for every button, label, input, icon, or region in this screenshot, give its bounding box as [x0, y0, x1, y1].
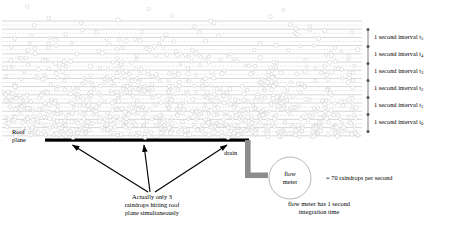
raindrop [284, 120, 287, 123]
raindrop [117, 64, 120, 67]
raindrop [159, 101, 163, 105]
raindrop [186, 72, 190, 76]
raindrop [152, 44, 156, 48]
raindrop [263, 89, 266, 92]
interval-label-subscript: 2 [421, 87, 423, 92]
raindrop [260, 98, 263, 101]
raindrop [240, 119, 243, 122]
raindrop [201, 130, 204, 133]
raindrop [254, 99, 258, 103]
raindrop [299, 45, 302, 48]
raindrop [228, 115, 231, 118]
raindrop [58, 65, 62, 69]
raindrop [339, 67, 343, 71]
interval-label-t0: 1 second interval t0 [374, 118, 423, 127]
raindrop [195, 90, 198, 93]
raindrop [288, 23, 292, 27]
raindrop [311, 115, 314, 118]
raindrop [37, 96, 41, 100]
raindrop [285, 86, 289, 90]
raindrop [206, 96, 209, 99]
roof-plane-label-line1: Roof [12, 128, 25, 136]
raindrop [120, 106, 124, 110]
interval-label-text: 1 second interval t [374, 118, 421, 125]
raindrop [135, 58, 138, 61]
raindrop [54, 71, 58, 75]
raindrop [170, 98, 174, 102]
raindrop [128, 133, 131, 136]
raindrop [272, 60, 275, 63]
raindrop [121, 87, 125, 91]
interval-label-t5: 1 second interval t5 [374, 33, 423, 42]
raindrop [236, 133, 240, 137]
raindrop [81, 97, 85, 101]
raindrop [324, 116, 328, 120]
raindrop [116, 94, 119, 97]
raindrop [331, 113, 335, 117]
raindrop [285, 99, 289, 103]
raindrop [280, 96, 284, 100]
raindrop [327, 60, 331, 64]
roof-plane-label-line2: plane [12, 136, 26, 144]
raindrop [201, 79, 204, 82]
raindrop [203, 39, 207, 43]
raindrop [24, 56, 28, 60]
raindrop [97, 119, 101, 123]
raindrop [285, 92, 288, 95]
raindrop [212, 92, 216, 96]
raindrop [240, 84, 244, 88]
raindrop [336, 114, 340, 118]
raindrop [201, 87, 204, 90]
raindrop [333, 46, 337, 50]
raindrop [294, 129, 298, 133]
raindrop [113, 122, 116, 125]
raindrop [38, 113, 42, 117]
raindrop [355, 48, 359, 52]
raindrop [242, 98, 246, 102]
raindrop [60, 111, 63, 114]
raindrop [178, 126, 182, 130]
raindrop [115, 48, 119, 52]
raindrop [177, 80, 181, 84]
interval-label-t4: 1 second interval t4 [374, 50, 423, 59]
raindrop [190, 109, 194, 113]
raindrop [120, 76, 123, 79]
interval-label-subscript: 4 [421, 53, 423, 58]
raindrop [288, 112, 291, 115]
raindrop [146, 92, 150, 96]
raindrop [292, 106, 295, 109]
raindrop [47, 103, 51, 107]
raindrop [210, 99, 214, 103]
raindrop [100, 126, 104, 130]
raindrop [47, 46, 51, 50]
drain-pipe-vertical [245, 140, 251, 178]
raindrop [48, 37, 51, 40]
raindrop [304, 59, 308, 63]
raindrop [48, 117, 52, 121]
raindrop [304, 97, 308, 101]
raindrop [157, 94, 161, 98]
raindrop [20, 105, 23, 108]
raindrop [98, 66, 101, 69]
raindrop [100, 51, 104, 55]
raindrop [217, 34, 221, 38]
raindrop [228, 102, 232, 106]
raindrop [247, 110, 250, 113]
interval-label-subscript: 5 [421, 36, 423, 41]
raindrop [325, 88, 328, 91]
raindrop [330, 94, 333, 97]
raindrop [23, 70, 26, 73]
raindrop [32, 109, 35, 112]
raindrop [63, 119, 67, 123]
raindrop [219, 130, 223, 134]
raindrop [193, 113, 196, 116]
raindrop [150, 82, 154, 86]
raindrop [113, 126, 117, 130]
raindrop [254, 106, 257, 109]
raindrop [89, 74, 93, 78]
raindrop [99, 94, 102, 97]
raindrop [226, 54, 229, 57]
raindrop [231, 117, 234, 120]
raindrop [218, 124, 222, 128]
raindrop [200, 112, 203, 115]
